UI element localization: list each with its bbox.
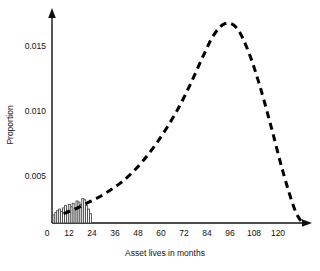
x-tick-label-4: 48 bbox=[133, 228, 143, 238]
x-tick-label-8: 96 bbox=[225, 228, 235, 238]
x-tick-label-10: 120 bbox=[271, 228, 285, 238]
histogram-bar bbox=[89, 214, 91, 223]
y-tick-label-2: 0.015 bbox=[25, 41, 47, 51]
y-tick-label-0: 0.005 bbox=[25, 171, 47, 181]
x-axis-title: Asset lives in months bbox=[125, 248, 205, 258]
x-tick-label-5: 60 bbox=[156, 228, 166, 238]
y-tick-labels: 0.005 0.010 0.015 bbox=[25, 41, 47, 181]
x-tick-label-9: 108 bbox=[247, 228, 261, 238]
chart-container: 0.005 0.010 0.015 0 12 24 36 48 60 72 84… bbox=[0, 0, 320, 271]
y-axis-title: Proportion bbox=[5, 105, 15, 144]
x-tick-label-0: 0 bbox=[45, 228, 50, 238]
fitted-distribution-curve bbox=[64, 23, 303, 223]
y-axis bbox=[48, 8, 56, 223]
x-tick-label-3: 36 bbox=[110, 228, 120, 238]
y-axis-arrowhead bbox=[48, 8, 56, 18]
x-tick-label-2: 24 bbox=[87, 228, 97, 238]
x-tick-label-6: 72 bbox=[179, 228, 189, 238]
x-tick-label-7: 84 bbox=[202, 228, 212, 238]
asset-lives-histogram-chart: 0.005 0.010 0.015 0 12 24 36 48 60 72 84… bbox=[0, 0, 320, 271]
x-axis-arrowhead bbox=[302, 219, 312, 227]
y-tick-label-1: 0.010 bbox=[25, 106, 47, 116]
x-tick-label-1: 12 bbox=[64, 228, 74, 238]
x-tick-labels: 0 12 24 36 48 60 72 84 96 108 120 bbox=[45, 228, 286, 238]
